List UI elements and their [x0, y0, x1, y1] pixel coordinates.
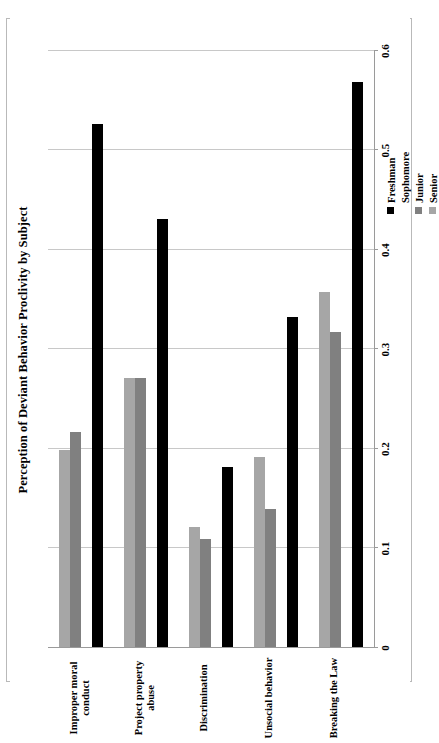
bar-freshman[interactable]	[92, 124, 103, 647]
category-label: Project property abuse	[133, 653, 157, 743]
bar-chart: Perception of Deviant Behavior Proclivit…	[10, 16, 410, 684]
axis-tick	[374, 448, 378, 449]
bar-freshman[interactable]	[222, 467, 233, 647]
legend-swatch-icon	[415, 207, 422, 214]
bar-senior[interactable]	[189, 527, 200, 647]
bar-junior[interactable]	[330, 332, 341, 647]
category-label: Breaking the Law	[328, 653, 340, 743]
axis-tick-label: 0.1	[379, 529, 391, 569]
legend-label: Freshman	[386, 158, 397, 203]
axis-tick	[374, 647, 378, 648]
legend-label: Sophomore	[400, 152, 411, 203]
bar-group	[254, 50, 298, 647]
axis-tick-label: 0.6	[379, 31, 391, 71]
bar-freshman[interactable]	[352, 82, 363, 647]
bar-freshman[interactable]	[287, 317, 298, 647]
bar-senior[interactable]	[254, 457, 265, 647]
legend-item-sophomore[interactable]: Sophomore	[399, 152, 411, 214]
bar-junior[interactable]	[70, 432, 81, 647]
value-axis-line	[48, 647, 374, 648]
chart-title: Perception of Deviant Behavior Proclivit…	[16, 16, 31, 684]
bar-senior[interactable]	[59, 450, 70, 647]
bar-senior[interactable]	[124, 378, 135, 647]
legend-label: Senior	[428, 174, 439, 203]
axis-tick-label: 0.2	[379, 429, 391, 469]
legend-item-junior[interactable]: Junior	[413, 173, 425, 214]
bar-junior[interactable]	[200, 539, 211, 647]
bar-junior[interactable]	[135, 378, 146, 647]
axis-tick	[374, 150, 378, 151]
legend-swatch-icon	[401, 207, 408, 214]
bar-freshman[interactable]	[157, 219, 168, 647]
axis-tick-label: 0.4	[379, 230, 391, 270]
axis-tick	[374, 50, 378, 51]
category-label: Discrimination	[198, 653, 210, 743]
legend-item-freshman[interactable]: Freshman	[385, 158, 397, 214]
axis-tick	[374, 249, 378, 250]
legend-swatch-icon	[429, 207, 436, 214]
category-axis-line	[374, 51, 375, 648]
bar-group	[124, 50, 168, 647]
bar-group	[319, 50, 363, 647]
axis-tick-label: 0	[379, 628, 391, 668]
bar-group	[189, 50, 233, 647]
axis-tick	[374, 349, 378, 350]
bar-group	[59, 50, 103, 647]
bar-senior[interactable]	[319, 292, 330, 647]
axis-tick	[374, 548, 378, 549]
legend-item-senior[interactable]: Senior	[427, 174, 439, 214]
category-label: Unsocial behavior	[263, 653, 275, 743]
category-label: Improper moral conduct	[68, 653, 92, 743]
legend-label: Junior	[414, 173, 425, 203]
bar-junior[interactable]	[265, 509, 276, 647]
axis-tick-label: 0.3	[379, 330, 391, 370]
plot-area: 00.10.20.30.40.50.6Breaking the LawUnsoc…	[48, 51, 374, 648]
legend-swatch-icon	[387, 207, 394, 214]
